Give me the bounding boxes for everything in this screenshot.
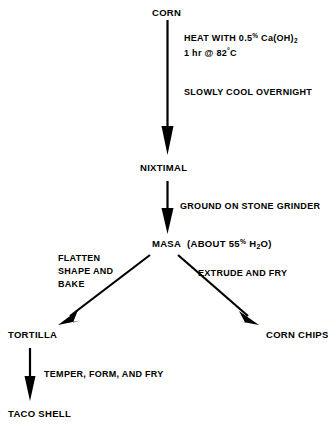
heat-line-2-unit: C (230, 48, 237, 58)
edge-label-heat-treatment: HEAT WITH 0.5% Ca(OH)21 hr @ 82°C (184, 32, 298, 59)
node-masa: MASA (ABOUT 55% H2O) (152, 237, 272, 251)
heat-line-1-compound: Ca(OH) (258, 33, 294, 43)
edge-label-flatten-shape-bake: FLATTEN SHAPE AND BAKE (58, 252, 113, 291)
edge-label-temper-form-fry: TEMPER, FORM, AND FRY (44, 368, 164, 380)
node-taco-shell: TACO SHELL (8, 408, 71, 421)
arrow-corn-to-nixtimal (162, 20, 174, 155)
node-corn-chips: CORN CHIPS (266, 329, 328, 342)
node-nixtimal: NIXTIMAL (140, 162, 187, 175)
node-corn: CORN (152, 7, 181, 20)
heat-line-2-prefix: 1 hr @ 82 (184, 48, 227, 58)
node-masa-name: MASA (152, 238, 181, 249)
edge-label-slowly-cool: SLOWLY COOL OVERNIGHT (184, 86, 312, 98)
arrow-masa-to-corn-chips (178, 255, 259, 325)
node-masa-water-h: H (246, 238, 256, 249)
subscript-two: 2 (294, 37, 298, 44)
node-masa-water-o: O) (261, 238, 272, 249)
edge-label-extrude-and-fry: EXTRUDE AND FRY (198, 267, 287, 279)
flowchart-diagram: CORN NIXTIMAL MASA (ABOUT 55% H2O) TORTI… (0, 0, 328, 434)
edge-label-ground-on-stone-grinder: GROUND ON STONE GRINDER (180, 200, 320, 212)
arrow-tortilla-to-taco-shell (25, 348, 36, 401)
node-tortilla: TORTILLA (8, 329, 57, 342)
node-masa-paren: (ABOUT 55 (187, 238, 240, 249)
heat-line-1-prefix: HEAT WITH 0.5 (184, 33, 252, 43)
arrow-nixtimal-to-masa (162, 181, 174, 234)
